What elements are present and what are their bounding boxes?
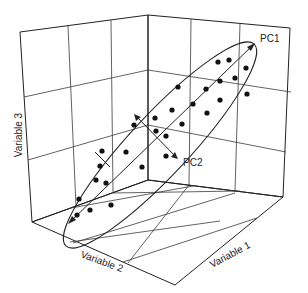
diagram-canvas: PC1 PC2 Variable 3 Variable 2 Variable 1 <box>0 0 308 293</box>
axis-label-variable-3: Variable 3 <box>13 112 24 157</box>
pca-3d-diagram: PC1 PC2 Variable 3 Variable 2 Variable 1 <box>0 0 308 293</box>
floor <box>32 180 283 285</box>
left-wall <box>20 15 148 222</box>
pc2-label: PC2 <box>183 157 203 168</box>
pc1-axis <box>68 43 255 224</box>
axis-label-variable-1: Variable 1 <box>208 239 253 270</box>
pc1-label: PC1 <box>260 33 280 44</box>
